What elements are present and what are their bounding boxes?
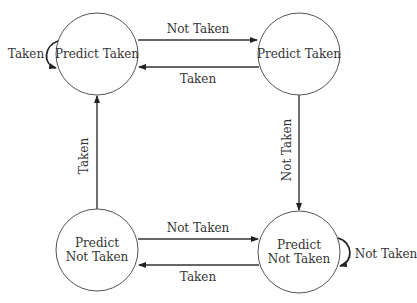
edge-label-s3-self-loop: Not Taken [355,247,417,261]
edge-label-s0-to-s1: Not Taken [167,22,230,36]
state-s3: Predict Not Taken [258,211,340,293]
state-s1: Predict Taken [257,13,341,95]
state-label-line-2: Not Taken [66,250,129,264]
edge-label-s2-to-s0: Taken [77,138,91,175]
edge-label-s3-to-s2: Taken [180,270,217,284]
edge-label-s1-to-s0: Taken [180,72,217,86]
state-label-line-1: Predict [75,236,119,250]
edge-label-s2-to-s3: Not Taken [167,221,230,235]
state-label-line-2: Not Taken [268,252,331,266]
state-label-line-1: Predict [277,238,321,252]
state-s0: Predict Taken [55,13,139,95]
edge-label-s1-to-s3: Not Taken [280,118,294,181]
edge-label-s0-self-loop: Taken [8,47,45,61]
state-s2: Predict Not Taken [56,209,138,291]
state-label: Predict Taken [55,47,139,61]
state-label: Predict Taken [257,47,341,61]
state-diagram: Not Taken Taken Not Taken Taken Taken No… [0,0,417,303]
